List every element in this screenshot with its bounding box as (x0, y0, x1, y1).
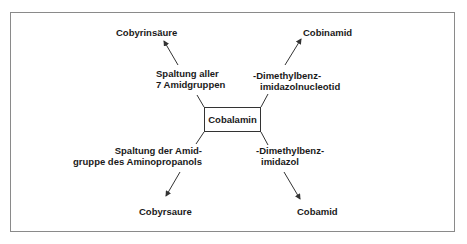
product-cobyrsaure: Cobyrsaure (139, 206, 192, 217)
reaction-label-bottom-left: Spaltung der Amid- gruppe des Aminopropa… (73, 145, 202, 167)
reaction-label-top-left: Spaltung aller 7 Amidgruppen (156, 68, 225, 90)
product-cobinamid: Cobinamid (303, 27, 352, 38)
center-node: Cobalamin (204, 107, 261, 132)
product-cobamid: Cobamid (297, 206, 338, 217)
product-cobyrinsaeure: Cobyrinsäure (116, 27, 177, 38)
reaction-label-top-right: -Dimethylbenz- imidazolnucleotid (253, 70, 340, 92)
center-label: Cobalamin (208, 114, 257, 125)
reaction-label-bottom-right: -Dimethylbenz- imidazol (256, 145, 324, 167)
